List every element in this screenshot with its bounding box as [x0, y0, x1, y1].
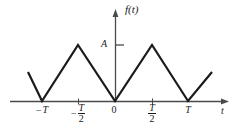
minus-sign: − — [36, 106, 42, 116]
tick-label-neg-t-half: − T 2 — [64, 103, 92, 124]
waveform-trace — [28, 45, 212, 101]
waveform-figure: f(t) t A −T − T 2 0 T 2 T — [0, 0, 233, 134]
tick-label-neg-t: −T — [31, 105, 53, 116]
tick-label-t-half: T 2 — [141, 103, 163, 124]
y-axis-arrow — [113, 9, 119, 17]
x-axis-arrow — [221, 99, 229, 105]
tick-label-origin: 0 — [106, 105, 122, 115]
fraction-t-half: T 2 — [148, 103, 156, 124]
tick-label-t: T — [180, 105, 196, 115]
amplitude-label: A — [101, 39, 107, 49]
x-axis-label: t — [221, 106, 224, 116]
fraction-neg-t-half: T 2 — [78, 103, 86, 124]
y-axis — [113, 9, 119, 102]
y-axis-label: f(t) — [125, 4, 138, 15]
minus-sign: − — [71, 109, 77, 119]
tick-label-t-value: T — [185, 104, 191, 115]
tick-label-neg-t-value: T — [43, 104, 49, 115]
fraction-denominator: 2 — [78, 114, 86, 124]
fraction-denominator: 2 — [148, 114, 156, 124]
